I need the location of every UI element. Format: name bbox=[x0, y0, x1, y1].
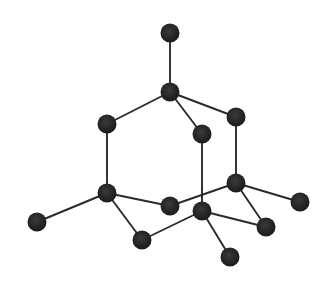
atom-N bbox=[221, 248, 240, 267]
atom-D bbox=[227, 108, 246, 127]
atom-M bbox=[257, 218, 276, 237]
atom-A bbox=[161, 24, 180, 43]
atom-F bbox=[98, 184, 117, 203]
atom-G bbox=[161, 197, 180, 216]
atom-C bbox=[98, 115, 117, 134]
atom-J bbox=[28, 213, 47, 232]
bond-K-I bbox=[142, 211, 202, 240]
atoms-layer bbox=[28, 24, 310, 267]
bond-F-G bbox=[107, 193, 170, 206]
atom-I bbox=[193, 202, 212, 221]
bond-H-L bbox=[236, 183, 300, 202]
crystal-structure-diagram bbox=[0, 0, 333, 285]
atom-K bbox=[133, 231, 152, 250]
atom-B bbox=[161, 83, 180, 102]
atom-H bbox=[227, 174, 246, 193]
atom-L bbox=[291, 193, 310, 212]
atom-E bbox=[193, 125, 212, 144]
bond-F-J bbox=[37, 193, 107, 222]
bond-B-C bbox=[107, 92, 170, 124]
